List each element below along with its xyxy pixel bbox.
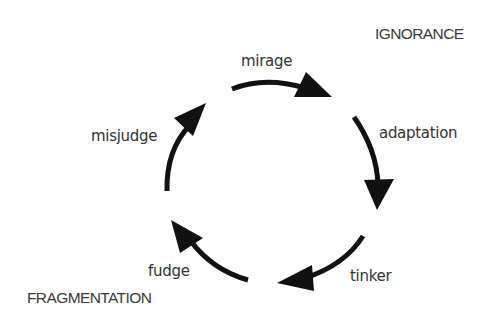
fragmentation-label: FRAGMENTATION: [27, 289, 151, 307]
step-label-fudge: fudge: [148, 262, 190, 280]
arrowhead-tinker-icon: [277, 265, 314, 291]
arrow-misjudge: [167, 125, 190, 191]
step-label-mirage: mirage: [241, 52, 292, 70]
ignorance-label: IGNORANCE: [375, 25, 463, 43]
arrowhead-misjudge-icon: [174, 103, 206, 136]
step-label-adaptation: adaptation: [379, 124, 457, 142]
arrow-mirage: [232, 82, 305, 89]
step-label-tinker: tinker: [350, 267, 391, 285]
arrowhead-adaptation-icon: [364, 179, 394, 210]
step-label-misjudge: misjudge: [91, 127, 157, 145]
cycle-diagram: [0, 0, 501, 330]
arrow-fudge: [190, 240, 248, 280]
arrow-adaptation: [354, 117, 378, 185]
